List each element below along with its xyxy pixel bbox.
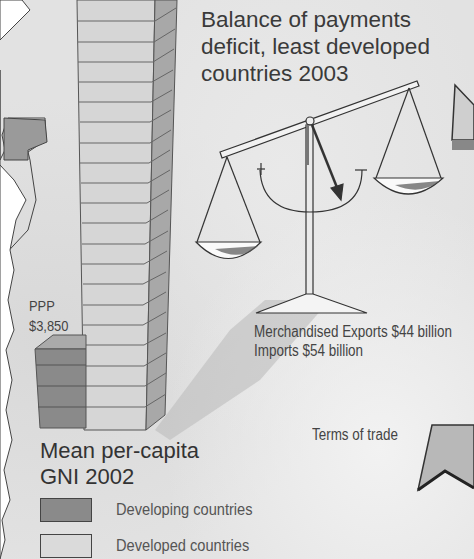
balance-scale (196, 81, 443, 313)
legend-swatch-developing (40, 498, 92, 522)
imports-text: Imports $54 billion (254, 341, 452, 360)
right-edge-shape (452, 85, 474, 150)
developing-bar (35, 335, 86, 428)
exports-text: Merchandised Exports $44 billion (254, 322, 452, 341)
ppp-label: PPP $3,850 (29, 296, 68, 336)
title-line-3: countries 2003 (201, 60, 430, 87)
balance-of-payments-title: Balance of payments deficit, least devel… (201, 6, 430, 87)
legend-label-developed: Developed countries (116, 536, 249, 556)
legend-item-developed: Developed countries (40, 534, 271, 558)
developed-bar (77, 0, 177, 430)
legend-item-developing: Developing countries (40, 498, 275, 522)
terms-of-trade-label: Terms of trade (312, 426, 398, 444)
title-line-1: Balance of payments (201, 6, 430, 33)
legend-title-line-2: GNI 2002 (40, 464, 199, 490)
legend-swatch-developed (40, 534, 92, 558)
terms-of-trade-arrow-icon (418, 425, 474, 490)
legend-title: Mean per-capita GNI 2002 (40, 438, 199, 490)
legend-label-developing: Developing countries (116, 500, 253, 520)
trade-figures: Merchandised Exports $44 billion Imports… (254, 322, 452, 360)
title-line-2: deficit, least developed (201, 33, 430, 60)
legend-title-line-1: Mean per-capita (40, 438, 199, 464)
ppp-label-line-1: PPP (29, 296, 68, 316)
ppp-label-value: $3,850 (29, 316, 68, 336)
